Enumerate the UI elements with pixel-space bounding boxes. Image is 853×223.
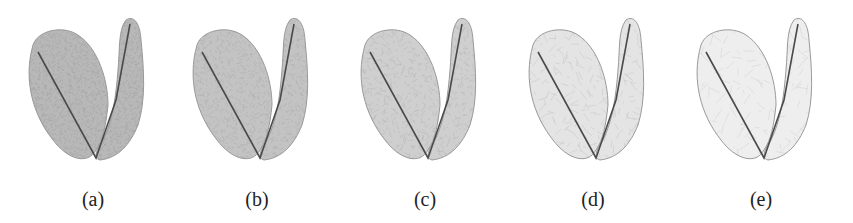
caption-c: (c) [340,188,510,211]
mesh-shape-group [179,8,321,173]
mesh-render-e [676,0,846,180]
panel-a: (a) [8,0,178,223]
mesh-shape-group [15,7,156,175]
caption-a: (a) [8,188,178,211]
panel-c: (c) [340,0,510,223]
mesh-render-a [8,0,178,180]
left-lobe [29,30,108,159]
figure-mesh-simplification: (a) (b) (c) (d) (e) [0,0,853,223]
mesh-shape-group [346,6,489,174]
left-lobe [193,30,272,159]
caption-e: (e) [676,188,846,211]
panel-b: (b) [172,0,342,223]
panel-d: (d) [508,0,678,223]
caption-d: (d) [508,188,678,211]
panel-e: (e) [676,0,846,223]
mesh-render-c [340,0,510,180]
mesh-render-d [508,0,678,180]
left-lobe [361,30,440,159]
mesh-render-b [172,0,342,180]
caption-b: (b) [172,188,342,211]
mesh-shape-group [677,4,834,180]
mesh-shape-group [514,1,659,176]
